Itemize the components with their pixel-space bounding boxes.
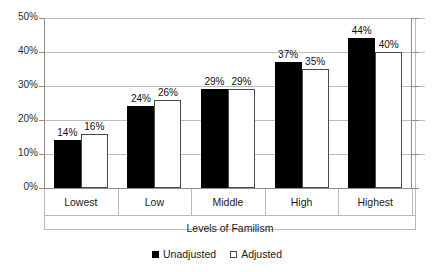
y-axis-label: 20% [2,114,38,124]
secondary-y-axis-tick [412,52,419,53]
y-axis-label-wrap: 50% [0,12,38,24]
category-label-middle: Middle [191,196,265,208]
bar-adjusted-low[interactable] [154,100,181,188]
y-axis-label: 30% [2,80,38,90]
legend-label: Adjusted [241,248,282,260]
category-separator [118,189,119,216]
secondary-y-axis-tick [412,86,419,87]
category-label-lowest: Lowest [44,196,118,208]
bar-value-label: 44% [345,25,379,36]
category-separator [44,189,45,216]
bar-unadjusted-low[interactable] [127,106,154,188]
filled-square-icon [152,251,159,258]
chart-legend: UnadjustedAdjusted [0,248,434,260]
y-axis-label: 0% [2,182,38,192]
bar-value-label: 40% [372,39,406,50]
bar-unadjusted-highest[interactable] [348,38,375,188]
bar-adjusted-high[interactable] [302,69,329,188]
category-separator [338,189,339,216]
category-separator [265,189,266,216]
secondary-y-axis-tick [412,120,419,121]
bar-unadjusted-high[interactable] [275,62,302,188]
plot-area [44,18,412,188]
secondary-y-axis-tick [412,18,419,19]
bar-chart: 0%10%20%30%40%50% 14%16%24%26%29%29%37%3… [0,0,434,272]
bar-adjusted-middle[interactable] [228,89,255,188]
bar-value-label: 26% [151,87,185,98]
y-axis-label: 10% [2,148,38,158]
bar-adjusted-highest[interactable] [375,52,402,188]
category-label-highest: Highest [338,196,412,208]
y-axis-label-wrap: 0% [0,182,38,194]
bar-adjusted-lowest[interactable] [81,134,108,188]
legend-item-unadjusted[interactable]: Unadjusted [152,248,216,260]
y-axis-label-wrap: 30% [0,80,38,92]
x-axis-title: Levels of Familism [44,222,416,234]
bar-value-label: 29% [225,76,259,87]
category-label-high: High [265,196,339,208]
bar-unadjusted-lowest[interactable] [54,140,81,188]
y-axis-label: 40% [2,46,38,56]
hollow-square-icon [230,251,237,258]
category-separator [412,189,413,216]
category-separator [191,189,192,216]
y-axis-label-wrap: 40% [0,46,38,58]
category-label-low: Low [118,196,192,208]
bar-unadjusted-middle[interactable] [201,89,228,188]
y-axis-label-wrap: 20% [0,114,38,126]
bar-value-label: 35% [298,56,332,67]
legend-label: Unadjusted [163,248,216,260]
y-axis-label-wrap: 10% [0,148,38,160]
secondary-y-axis-tick [412,154,419,155]
bar-value-label: 16% [77,121,111,132]
legend-item-adjusted[interactable]: Adjusted [230,248,282,260]
y-axis-label: 50% [2,12,38,22]
